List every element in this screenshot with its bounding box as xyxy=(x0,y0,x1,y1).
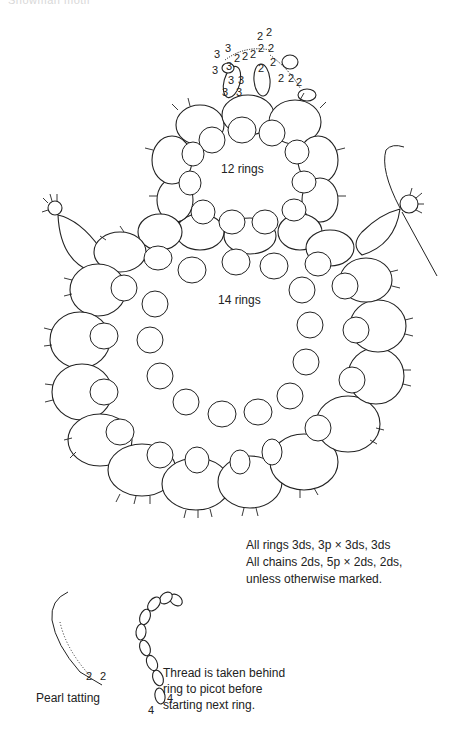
pearl-count-left: 2 xyxy=(86,670,92,682)
svg-text:2: 2 xyxy=(250,48,256,60)
head-ring-count-label: 12 rings xyxy=(221,162,264,176)
svg-text:2: 2 xyxy=(288,72,294,84)
svg-text:2: 2 xyxy=(296,76,302,88)
pearl-tatting-sample: 2 2 xyxy=(52,592,106,685)
body-ring-count-label: 14 rings xyxy=(218,293,261,307)
svg-text:3: 3 xyxy=(226,60,232,72)
svg-text:2: 2 xyxy=(278,72,284,84)
svg-text:2: 2 xyxy=(266,26,272,38)
pearl-count-right: 2 xyxy=(100,670,106,682)
svg-text:3: 3 xyxy=(238,74,244,86)
note-unless: unless otherwise marked. xyxy=(246,571,402,588)
svg-text:2: 2 xyxy=(257,30,263,42)
thread-note-line-3: starting next ring. xyxy=(163,697,285,713)
chain-count-left: 4 xyxy=(148,704,154,716)
svg-text:3: 3 xyxy=(222,86,228,98)
note-chains: All chains 2ds, 5p × 2ds, 2ds, xyxy=(246,554,402,571)
svg-text:3: 3 xyxy=(228,74,234,86)
left-arm xyxy=(42,194,103,272)
thread-note-caption: Thread is taken behind ring to picot bef… xyxy=(163,665,285,713)
thread-note-line-2: ring to picot before xyxy=(163,681,285,697)
svg-text:2: 2 xyxy=(234,52,240,64)
svg-text:2: 2 xyxy=(258,62,264,74)
thread-note-line-1: Thread is taken behind xyxy=(163,665,285,681)
snowman-tatting-diagram: 33 33 33 33 222 22 22 22 22 2 xyxy=(0,0,466,730)
svg-text:2: 2 xyxy=(270,56,276,68)
svg-text:2: 2 xyxy=(268,42,274,54)
svg-text:3: 3 xyxy=(214,48,220,60)
hat-cluster: 33 33 33 33 222 22 22 22 22 2 xyxy=(212,26,316,101)
right-arm xyxy=(356,146,437,276)
body-inner-rings xyxy=(137,249,323,427)
svg-text:2: 2 xyxy=(258,42,264,54)
svg-text:2: 2 xyxy=(242,50,248,62)
pearl-tatting-caption: Pearl tatting xyxy=(36,690,100,706)
svg-text:3: 3 xyxy=(212,64,218,76)
note-rings: All rings 3ds, 3p × 3ds, 3ds xyxy=(246,537,402,554)
svg-text:3: 3 xyxy=(225,42,231,54)
pattern-notes: All rings 3ds, 3p × 3ds, 3ds All chains … xyxy=(246,537,402,588)
